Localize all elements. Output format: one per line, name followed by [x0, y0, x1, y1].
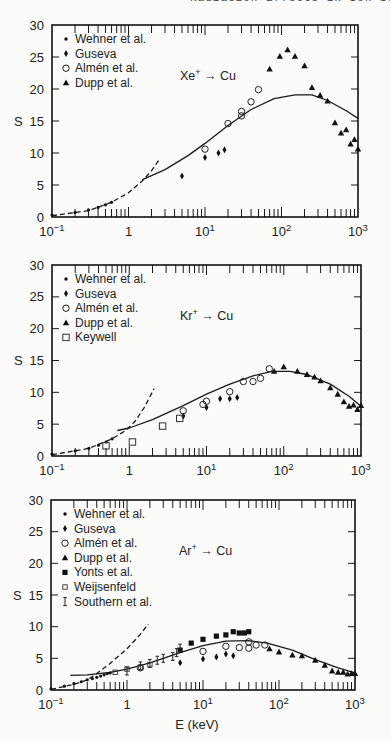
chart-panel-2: 051015202530S10−11101102103Wehner et al.…	[14, 258, 371, 479]
dot-marker	[49, 687, 52, 690]
y-axis-label: S	[14, 114, 23, 129]
triangle-marker	[351, 136, 357, 142]
diamond-marker	[223, 146, 227, 153]
y-tick-label: 5	[37, 417, 44, 432]
x-tick-label: 102	[272, 222, 292, 239]
dot-marker	[64, 277, 67, 280]
square-open-marker	[129, 439, 135, 445]
solid-theory-curve	[142, 95, 358, 180]
triangle-marker	[343, 127, 349, 133]
legend: Wehner et al.GusevaAlmén et al.Dupp et a…	[63, 32, 146, 90]
x-tick-label: 10−1	[38, 695, 63, 712]
legend-label: Wehner et al.	[75, 272, 146, 286]
y-tick-label: 20	[29, 556, 43, 571]
x-tick-label: 102	[269, 695, 289, 712]
diamond-shape	[63, 525, 67, 532]
dot-marker	[80, 680, 83, 683]
triangle-marker	[332, 120, 338, 126]
triangle-marker	[62, 554, 68, 560]
triangle-marker	[63, 319, 69, 325]
circle-open-marker	[63, 65, 69, 71]
y-tick-label: 10	[30, 385, 44, 400]
x-tick-label: 101	[197, 461, 217, 478]
legend-label: Keywell	[75, 330, 116, 344]
dot-marker	[74, 449, 77, 452]
circle-open-marker	[246, 639, 252, 645]
square-filled-marker	[231, 629, 236, 634]
x-tick-label: 101	[195, 222, 215, 239]
solid-theory-curve	[117, 371, 361, 430]
square-filled-marker	[200, 637, 205, 642]
dashed-theory-curve	[52, 160, 159, 216]
dot-marker	[110, 201, 113, 204]
errorbar-marker	[171, 652, 175, 660]
x-tick-label: 102	[274, 461, 294, 478]
circle-open-marker	[257, 375, 263, 381]
legend-label: Wehner et al.	[74, 507, 145, 521]
diamond-marker	[63, 525, 67, 532]
triangle-marker	[338, 130, 344, 136]
y-tick-label: 5	[37, 178, 44, 193]
diamond-marker	[178, 659, 182, 666]
circle-open-marker	[255, 86, 261, 92]
dot-marker	[95, 676, 98, 679]
dot-marker	[106, 672, 109, 675]
diamond-marker	[214, 654, 218, 661]
y-tick-label: 15	[29, 588, 43, 603]
diamond-marker	[64, 290, 68, 297]
triangle-marker	[266, 66, 272, 72]
chart-panel-3: 051015202530S10−11101102103E (keV)Wehner…	[13, 493, 365, 733]
dot-marker	[103, 673, 106, 676]
triangle-marker	[277, 53, 283, 59]
chart-panel-1: 051015202530S10−11101102103Wehner et al.…	[14, 18, 368, 240]
circle-open-marker	[246, 645, 252, 651]
y-axis-label: S	[14, 353, 23, 368]
y-tick-label: 30	[30, 18, 44, 33]
y-tick-label: 10	[29, 619, 43, 634]
x-tick-label: 103	[351, 461, 371, 478]
legend-label: Wehner et al.	[75, 32, 146, 46]
triangle-marker	[341, 398, 347, 404]
dot-marker	[86, 678, 89, 681]
sputtering-yield-figure: 051015202530S10−11101102103Wehner et al.…	[0, 0, 391, 741]
legend-label: Guseva	[75, 287, 117, 301]
square-filled-marker	[246, 629, 251, 634]
y-tick-label: 5	[36, 651, 43, 666]
square-open-marker	[159, 423, 165, 429]
circle-open-marker	[248, 99, 254, 105]
x-axis-label: E (keV)	[175, 717, 218, 732]
triangle-marker	[324, 98, 330, 104]
circle-open-marker	[250, 378, 256, 384]
y-tick-label: 0	[37, 210, 44, 225]
triangle-marker	[329, 668, 335, 674]
diamond-marker	[224, 650, 228, 657]
square-filled-marker	[189, 641, 194, 646]
diamond-marker	[203, 154, 207, 161]
circle-open-marker	[253, 642, 259, 648]
square-filled-marker	[223, 632, 228, 637]
legend-label: Dupp et al.	[74, 551, 132, 565]
dot-marker	[109, 671, 112, 674]
y-tick-label: 25	[29, 524, 43, 539]
dot-marker	[72, 682, 75, 685]
circle-open-marker	[227, 388, 233, 394]
diamond-shape	[223, 146, 227, 153]
triangle-marker	[284, 47, 290, 53]
diamond-shape	[224, 650, 228, 657]
diamond-shape	[64, 50, 68, 57]
series-guseva	[178, 650, 235, 666]
square-filled-marker	[214, 634, 219, 639]
dot-marker	[73, 211, 76, 214]
diamond-marker	[201, 655, 205, 662]
dot-marker	[96, 206, 99, 209]
square-filled-marker	[62, 570, 67, 575]
x-tick-label: 10−1	[39, 461, 64, 478]
dot-marker	[97, 444, 100, 447]
x-tick-label: 101	[193, 695, 213, 712]
diamond-shape	[180, 173, 184, 180]
diamond-shape	[178, 659, 182, 666]
x-tick-label: 1	[123, 697, 130, 712]
diamond-shape	[203, 154, 207, 161]
diamond-marker	[216, 150, 220, 157]
triangle-marker	[294, 368, 300, 374]
